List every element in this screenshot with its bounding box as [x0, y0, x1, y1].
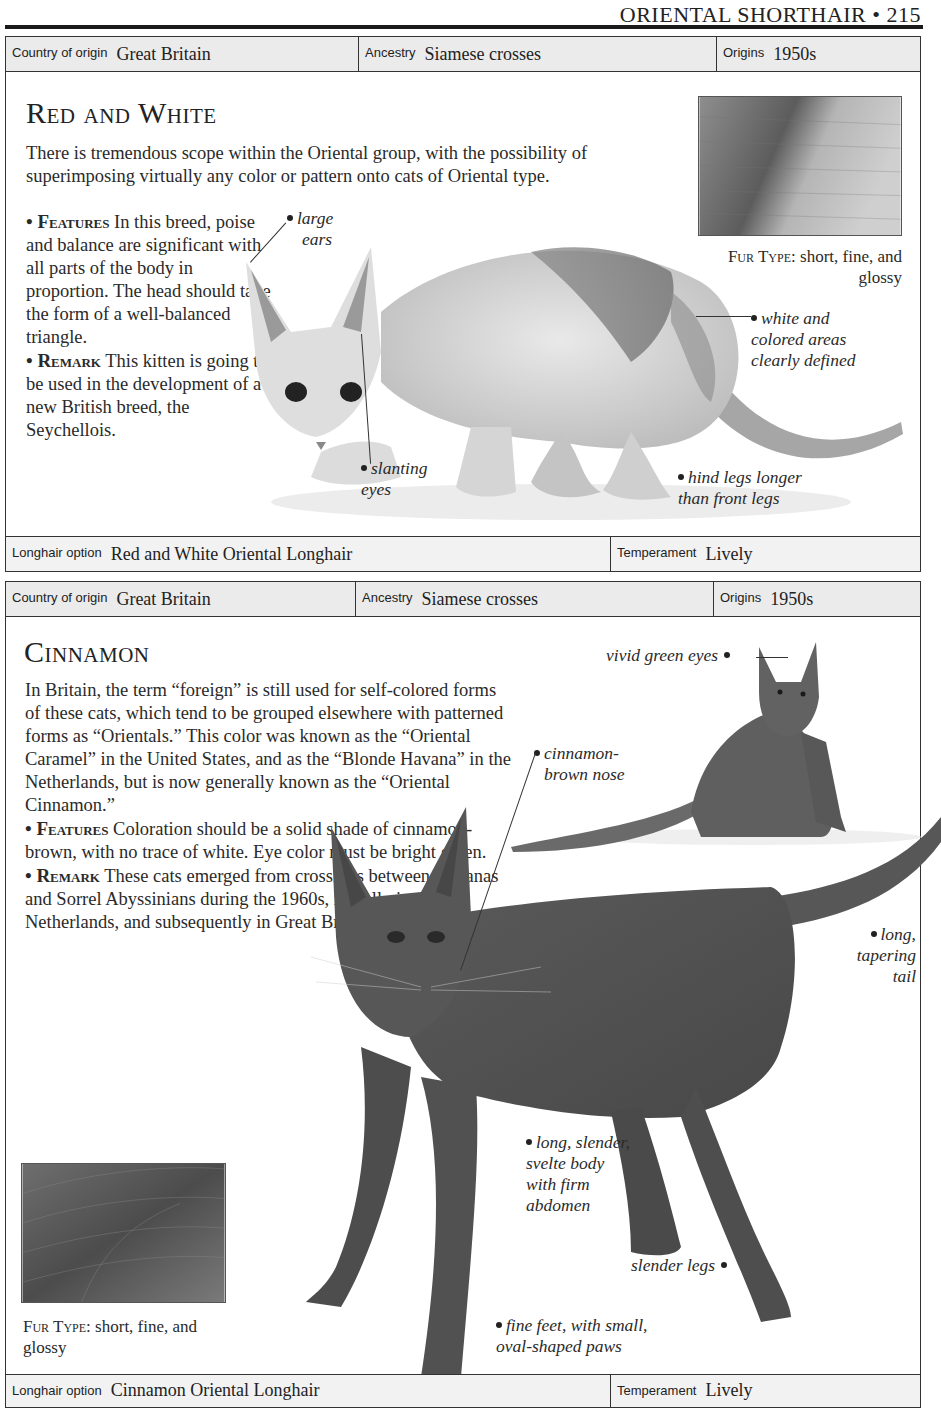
temperament-cell: Temperament Lively: [611, 537, 920, 571]
callout-dot: [496, 1322, 502, 1328]
header-rule: [5, 25, 923, 29]
callout-large-ears: large ears: [287, 208, 333, 250]
remark-label: • Remark: [26, 350, 101, 371]
country-of-origin-cell: Country of origin Great Britain: [6, 582, 356, 616]
longhair-label: Longhair option: [12, 1383, 102, 1398]
fur-type-label: Fur Type:: [23, 1317, 91, 1336]
entry2-info-top: Country of origin Great Britain Ancestry…: [5, 581, 921, 617]
callout-dot: [287, 215, 293, 221]
origins-value: 1950s: [773, 44, 816, 65]
fur-type-label: Fur Type:: [728, 247, 796, 266]
entry-intro: There is tremendous scope within the Ori…: [26, 142, 636, 188]
temperament-value: Lively: [705, 544, 752, 565]
temperament-label: Temperament: [617, 545, 696, 560]
callout-fine-feet: fine feet, with small, oval-shaped paws: [496, 1315, 647, 1357]
cinnamon-cat-standing-photo: [301, 787, 941, 1382]
longhair-value: Cinnamon Oriental Longhair: [111, 1380, 320, 1401]
callout-dot: [871, 931, 877, 937]
fur-type-caption: Fur Type: short, fine, and glossy: [23, 1316, 223, 1358]
entry1-info-bottom: Longhair option Red and White Oriental L…: [5, 536, 921, 572]
fur-type-caption: Fur Type: short, fine, and glossy: [712, 246, 902, 288]
longhair-option-cell: Longhair option Red and White Oriental L…: [6, 537, 611, 571]
ancestry-value: Siamese crosses: [422, 589, 538, 610]
features-label: • Features: [26, 211, 109, 232]
longhair-option-cell: Longhair option Cinnamon Oriental Longha…: [6, 1375, 611, 1407]
remark-label: • Remark: [25, 865, 100, 886]
callout-dot: [724, 652, 730, 658]
callout-dot: [361, 465, 367, 471]
callout-slanting-eyes: slanting eyes: [361, 458, 427, 500]
origins-value: 1950s: [770, 589, 813, 610]
country-label: Country of origin: [12, 45, 107, 60]
fur-swatch-red-white: [698, 96, 902, 236]
entry1-panel: Red and White There is tremendous scope …: [5, 72, 921, 538]
callout-hind-legs: hind legs longer than front legs: [678, 467, 802, 509]
entry2-panel: Cinnamon In Britain, the term “foreign” …: [5, 617, 921, 1375]
country-value: Great Britain: [116, 44, 210, 65]
callout-dot: [751, 315, 757, 321]
entry2-info-bottom: Longhair option Cinnamon Oriental Longha…: [5, 1374, 921, 1408]
temperament-value: Lively: [705, 1380, 752, 1401]
fur-swatch-cinnamon: [21, 1163, 226, 1303]
callout-white-colored-areas: white and colored areas clearly defined: [751, 308, 855, 371]
callout-dot: [526, 1139, 532, 1145]
callout-dot: [721, 1262, 727, 1268]
ancestry-cell: Ancestry Siamese crosses: [356, 582, 714, 616]
leader-line: [696, 316, 751, 317]
ancestry-label: Ancestry: [362, 590, 413, 605]
entry1-info-top: Country of origin Great Britain Ancestry…: [5, 36, 921, 72]
temperament-label: Temperament: [617, 1383, 696, 1398]
origins-label: Origins: [723, 45, 764, 60]
callout-slender-legs: slender legs: [631, 1255, 731, 1276]
origins-label: Origins: [720, 590, 761, 605]
country-label: Country of origin: [12, 590, 107, 605]
leader-line: [756, 657, 788, 658]
intro-text: There is tremendous scope within the Ori…: [26, 143, 587, 186]
country-of-origin-cell: Country of origin Great Britain: [6, 37, 359, 71]
callout-svelte-body: long, slender, svelte body with firm abd…: [526, 1132, 630, 1216]
origins-cell: Origins 1950s: [717, 37, 920, 71]
callout-long-tapering-tail: long, tapering tail: [824, 924, 916, 987]
ancestry-cell: Ancestry Siamese crosses: [359, 37, 717, 71]
entry-title: Cinnamon: [24, 635, 150, 669]
longhair-value: Red and White Oriental Longhair: [111, 544, 353, 565]
entry-title: Red and White: [26, 96, 217, 130]
callout-vivid-green-eyes: vivid green eyes: [606, 645, 734, 666]
ancestry-label: Ancestry: [365, 45, 416, 60]
longhair-label: Longhair option: [12, 545, 102, 560]
temperament-cell: Temperament Lively: [611, 1375, 920, 1407]
features-label: • Features: [25, 818, 108, 839]
country-value: Great Britain: [116, 589, 210, 610]
fur-type-value: short, fine, and glossy: [800, 247, 902, 287]
ancestry-value: Siamese crosses: [425, 44, 541, 65]
callout-cinnamon-brown-nose: cinnamon- brown nose: [534, 743, 625, 785]
origins-cell: Origins 1950s: [714, 582, 920, 616]
callout-dot: [678, 474, 684, 480]
